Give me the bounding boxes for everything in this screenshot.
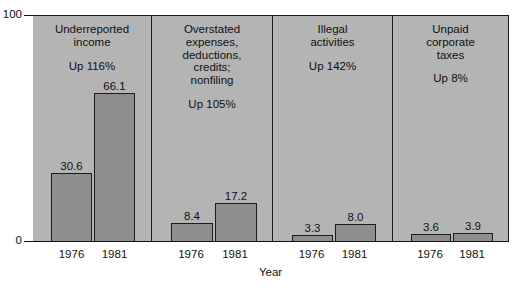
bar-value-label: 3.9 bbox=[439, 220, 507, 232]
x-tick-label: 1981 bbox=[446, 247, 498, 261]
panel-bars: 3.63.9 bbox=[393, 16, 508, 242]
y-tick-0 bbox=[24, 241, 33, 243]
bar-group: 3.9 bbox=[453, 217, 493, 242]
x-axis-line bbox=[33, 241, 508, 243]
bar-value-label: 8.0 bbox=[321, 211, 390, 223]
bar bbox=[171, 223, 213, 242]
bar bbox=[94, 93, 135, 242]
chart-panel: Overstated expenses, deductions, credits… bbox=[151, 16, 272, 242]
bar-group: 66.1 bbox=[94, 77, 135, 242]
x-axis-title: Year bbox=[33, 265, 508, 279]
bar bbox=[215, 203, 257, 242]
panel-bars: 3.38.0 bbox=[273, 16, 392, 242]
bar bbox=[335, 224, 376, 242]
chart-panel: Illegal activitiesUp 142%3.38.0 bbox=[272, 16, 392, 242]
x-tick-label-row: 19761981197619811976198119761981 bbox=[33, 247, 508, 263]
chart-panel: Underreported incomeUp 116%30.666.1 bbox=[33, 16, 151, 242]
bar-group: 8.0 bbox=[335, 208, 376, 242]
bar-group: 8.4 bbox=[171, 207, 213, 242]
bar-value-label: 66.1 bbox=[80, 80, 149, 92]
bar-value-label: 17.2 bbox=[201, 190, 271, 202]
panel-bars: 8.417.2 bbox=[152, 16, 272, 242]
bar-chart: 100 0 Underreported incomeUp 116%30.666.… bbox=[0, 0, 519, 291]
chart-panel: Unpaid corporate taxesUp 8%3.63.9 bbox=[392, 16, 508, 242]
x-tick-label: 1981 bbox=[328, 247, 381, 261]
bar-group: 17.2 bbox=[215, 187, 257, 242]
x-tick-label: 1981 bbox=[208, 247, 262, 261]
bar bbox=[51, 173, 92, 242]
bar-group: 30.6 bbox=[51, 157, 92, 242]
x-tick-label: 1981 bbox=[88, 247, 141, 261]
panel-bars: 30.666.1 bbox=[33, 16, 151, 242]
y-tick-100 bbox=[24, 15, 33, 17]
y-axis-label-0: 0 bbox=[0, 234, 22, 246]
y-axis-label-100: 100 bbox=[0, 8, 22, 20]
plot-area: Underreported incomeUp 116%30.666.1Overs… bbox=[33, 15, 509, 242]
